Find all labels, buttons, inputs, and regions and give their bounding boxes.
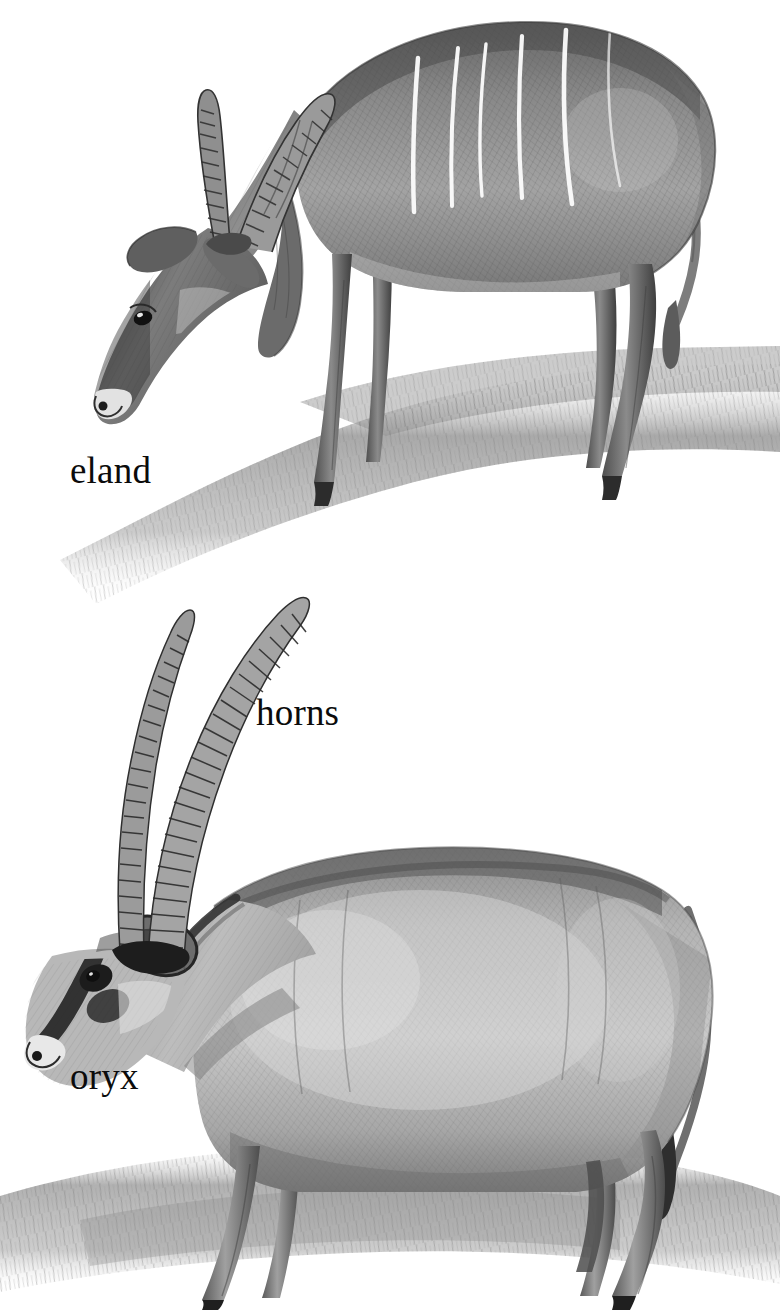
figure-eland: [0, 0, 780, 640]
figure-oryx: [0, 560, 780, 1311]
label-oryx: oryx: [70, 1058, 139, 1095]
illustration-plate: eland horns oryx: [0, 0, 780, 1311]
label-horns: horns: [256, 694, 339, 731]
label-eland: eland: [70, 452, 151, 489]
